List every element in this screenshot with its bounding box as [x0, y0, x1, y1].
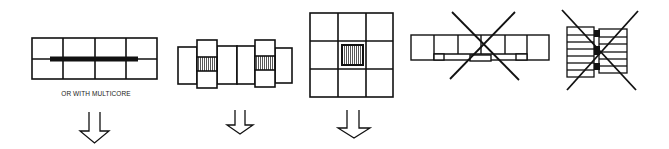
hatched-section	[197, 57, 217, 71]
panel	[237, 46, 255, 84]
down-arrow-icon	[338, 110, 370, 138]
hatched-section	[255, 56, 275, 70]
connector-block	[516, 54, 527, 60]
panel	[217, 46, 237, 84]
figure-1-multicore-grid	[32, 38, 157, 79]
hatched-center	[342, 45, 363, 65]
connector-block	[434, 54, 444, 60]
figure-2-panel-row	[178, 40, 292, 88]
down-arrow-icon	[80, 112, 109, 143]
diagram-canvas	[0, 0, 669, 149]
multicore-bar	[50, 57, 138, 62]
panel	[275, 48, 292, 83]
panel	[178, 47, 197, 84]
figure-1-caption: OR WITH MULTICORE	[60, 90, 132, 97]
connector-block	[594, 63, 600, 70]
figure-3-square-grid	[310, 13, 393, 97]
down-arrow-icon	[227, 110, 253, 134]
connector-block	[594, 30, 600, 37]
